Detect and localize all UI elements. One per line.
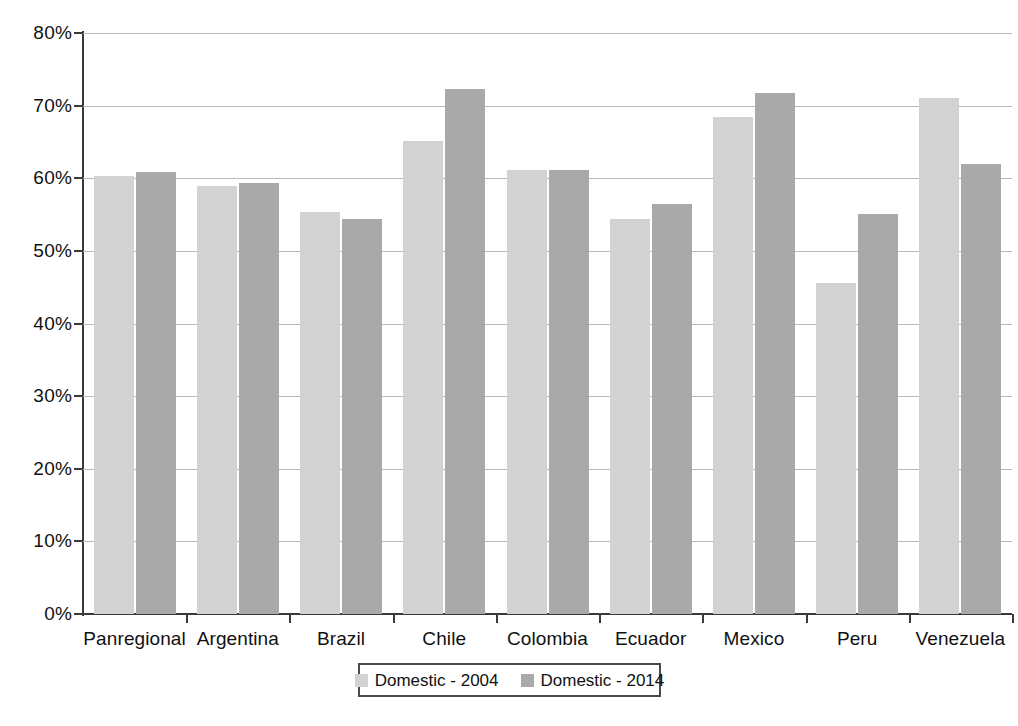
y-tick-label: 10% [0,531,72,550]
x-tick-label: Peru [806,628,909,650]
bar[interactable] [919,98,959,614]
x-tick-label: Chile [393,628,496,650]
bar-group [919,33,1001,614]
bar[interactable] [755,93,795,614]
bar[interactable] [549,170,589,614]
y-tick-label-text: 40% [6,314,72,333]
bar[interactable] [136,172,176,614]
plot-area [83,33,1012,614]
x-tick-mark [806,614,808,623]
x-tick-mark [702,614,704,623]
bar[interactable] [403,141,443,615]
x-tick-label: Panregional [83,628,186,650]
y-tick-label-text: 60% [6,168,72,187]
bar-group [816,33,898,614]
y-tick-label-text: 80% [6,23,72,42]
x-tick-mark [1012,614,1014,623]
x-tick-mark [496,614,498,623]
y-tick-label: 50% [0,241,72,260]
y-tick-label-text: 20% [6,459,72,478]
x-tick-label: Ecuador [599,628,702,650]
x-tick-label: Brazil [289,628,392,650]
bar[interactable] [239,183,279,614]
bar-group [403,33,485,614]
x-tick-mark [909,614,911,623]
y-tick-label-text: 30% [6,386,72,405]
legend-label-2014: Domestic - 2014 [541,672,665,689]
y-tick-label: 30% [0,386,72,405]
bar[interactable] [816,283,856,614]
bar[interactable] [713,117,753,614]
x-tick-label: Venezuela [909,628,1012,650]
bar[interactable] [858,214,898,614]
bar[interactable] [300,212,340,614]
legend-label-2004: Domestic - 2004 [375,672,499,689]
x-tick-label: Colombia [496,628,599,650]
y-tick-label: 80% [0,23,72,42]
bar[interactable] [652,204,692,614]
bar[interactable] [94,176,134,614]
y-tick-label-text: 50% [6,241,72,260]
x-tick-mark [599,614,601,623]
chart-legend: Domestic - 2004 Domestic - 2014 [358,663,661,697]
bar-group [610,33,692,614]
y-tick-label: 70% [0,96,72,115]
x-tick-label: Argentina [186,628,289,650]
bar[interactable] [507,170,547,614]
legend-item-2014[interactable]: Domestic - 2014 [521,672,665,689]
x-tick-mark [289,614,291,623]
bar[interactable] [610,219,650,614]
legend-swatch-icon-2014 [521,674,534,687]
y-tick-label: 40% [0,314,72,333]
y-tick-label: 20% [0,459,72,478]
bar-group [197,33,279,614]
bar-chart: 0%10%20%30%40%50%60%70%80% PanregionalAr… [0,0,1018,726]
y-tick-label-text: 0% [6,604,72,623]
bar-group [507,33,589,614]
y-tick-label-text: 70% [6,96,72,115]
y-tick-label: 0% [0,604,72,623]
x-tick-mark [186,614,188,623]
x-tick-label: Mexico [702,628,805,650]
bar-group [713,33,795,614]
bar[interactable] [197,186,237,614]
y-tick-label-text: 10% [6,531,72,550]
legend-item-2004[interactable]: Domestic - 2004 [355,672,499,689]
bar-group [300,33,382,614]
y-tick-label: 60% [0,168,72,187]
bar[interactable] [342,219,382,614]
legend-swatch-icon-2004 [355,674,368,687]
bar[interactable] [961,164,1001,614]
bar[interactable] [445,89,485,614]
x-tick-mark [393,614,395,623]
bar-group [94,33,176,614]
